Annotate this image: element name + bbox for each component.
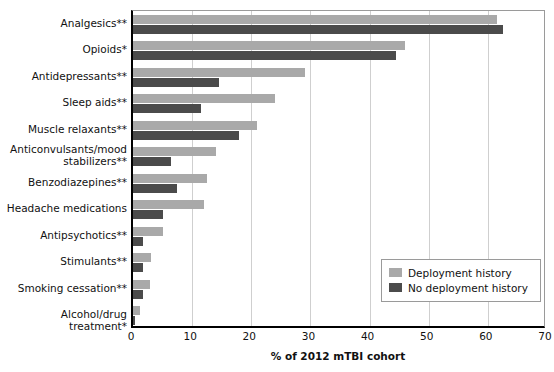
bar — [133, 290, 143, 299]
bar — [133, 25, 503, 34]
bar — [133, 253, 151, 262]
legend-label: No deployment history — [408, 282, 528, 294]
bar-group — [133, 174, 544, 193]
bar — [133, 316, 135, 325]
bar — [133, 174, 207, 183]
bar — [133, 94, 275, 103]
bar — [133, 210, 163, 219]
bar-group — [133, 68, 544, 87]
category-label: Alcohol/drug treatment* — [0, 309, 127, 332]
category-label: Benzodiazepines** — [0, 177, 127, 189]
category-label: Antidepressants** — [0, 71, 127, 83]
bar-group — [133, 200, 544, 219]
category-label: Sleep aids** — [0, 97, 127, 109]
legend: Deployment historyNo deployment history — [381, 259, 541, 302]
legend-swatch-icon — [389, 283, 402, 292]
bar-chart: Analgesics**Opioids*Antidepressants**Sle… — [0, 0, 554, 372]
legend-swatch-icon — [389, 268, 402, 277]
bar — [133, 131, 239, 140]
category-label: Stimulants** — [0, 256, 127, 268]
x-tick-label: 40 — [361, 330, 374, 342]
bar-group — [133, 15, 544, 34]
legend-entry: No deployment history — [389, 280, 533, 295]
x-axis-tick-labels: 010203040506070 — [131, 330, 545, 346]
x-tick-label: 70 — [538, 330, 551, 342]
category-label: Opioids* — [0, 44, 127, 56]
bar — [133, 147, 216, 156]
bar — [133, 200, 204, 209]
bar-group — [133, 94, 544, 113]
legend-entry: Deployment history — [389, 265, 533, 280]
bar-group — [133, 227, 544, 246]
bar-group — [133, 147, 544, 166]
bar — [133, 78, 219, 87]
bar — [133, 157, 171, 166]
category-label: Headache medications — [0, 203, 127, 215]
x-tick-label: 10 — [183, 330, 196, 342]
category-label: Antipsychotics** — [0, 230, 127, 242]
bar — [133, 184, 177, 193]
bar — [133, 68, 305, 77]
bar — [133, 263, 143, 272]
x-tick-label: 50 — [420, 330, 433, 342]
x-tick-label: 0 — [128, 330, 135, 342]
bar-group — [133, 121, 544, 140]
bar — [133, 51, 396, 60]
x-axis-title: % of 2012 mTBI cohort — [131, 350, 545, 362]
category-label: Analgesics** — [0, 18, 127, 30]
bar — [133, 227, 163, 236]
category-label: Smoking cessation** — [0, 283, 127, 295]
category-label: Anticonvulsants/mood stabilizers** — [0, 144, 127, 167]
bar — [133, 237, 143, 246]
bar — [133, 121, 257, 130]
legend-label: Deployment history — [408, 267, 512, 279]
bar — [133, 306, 140, 315]
x-tick-label: 60 — [479, 330, 492, 342]
x-tick-label: 30 — [302, 330, 315, 342]
bar — [133, 41, 405, 50]
bar — [133, 280, 150, 289]
bar — [133, 15, 497, 24]
bar-group — [133, 41, 544, 60]
bar-group — [133, 306, 544, 325]
gridline-70 — [547, 11, 548, 326]
category-axis-labels: Analgesics**Opioids*Antidepressants**Sle… — [0, 10, 127, 328]
x-tick-label: 20 — [243, 330, 256, 342]
category-label: Muscle relaxants** — [0, 124, 127, 136]
bar — [133, 104, 201, 113]
